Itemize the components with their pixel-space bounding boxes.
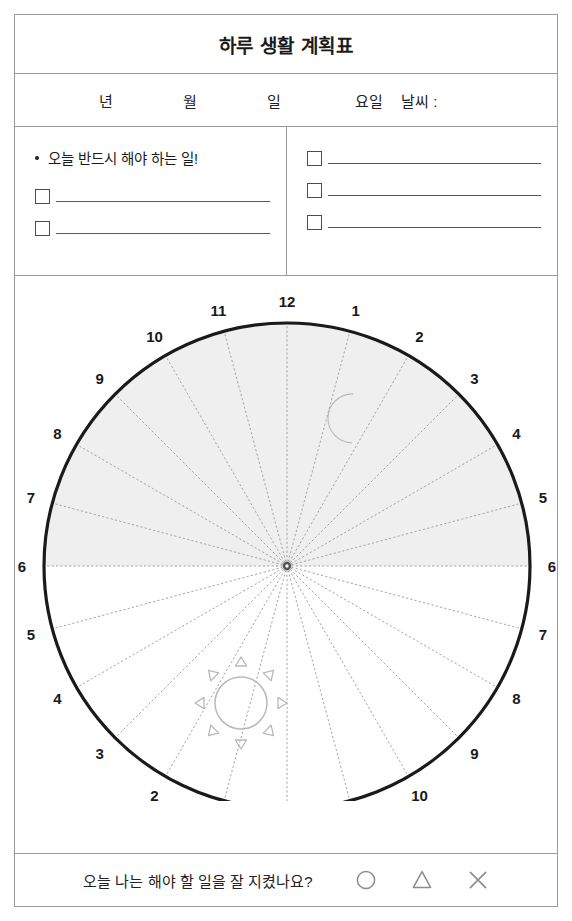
- todo-item-row[interactable]: [35, 221, 270, 236]
- hour-label: 1: [351, 302, 359, 319]
- hour-label: 4: [512, 425, 521, 442]
- hour-label: 7: [27, 489, 35, 506]
- year-label[interactable]: 년: [99, 90, 113, 111]
- todo-item-row[interactable]: [307, 215, 542, 230]
- write-in-line[interactable]: [328, 195, 542, 196]
- hour-spoke[interactable]: [287, 566, 522, 629]
- todo-column-right: [287, 127, 558, 275]
- hour-label: 3: [470, 370, 478, 387]
- hour-spoke[interactable]: [224, 566, 287, 801]
- hour-spoke[interactable]: [287, 566, 350, 801]
- hour-label: 4: [53, 690, 62, 707]
- checkbox-icon[interactable]: [307, 183, 322, 198]
- hour-label: 6: [548, 558, 556, 575]
- hour-label: 9: [470, 745, 478, 762]
- hour-label: 2: [415, 328, 423, 345]
- write-in-line[interactable]: [328, 227, 542, 228]
- month-label[interactable]: 월: [183, 90, 197, 111]
- hour-label: 5: [27, 626, 35, 643]
- write-in-line[interactable]: [56, 233, 270, 234]
- hour-spoke[interactable]: [287, 566, 409, 776]
- worksheet-sheet: 하루 생활 계획표 년 월 일 요일 날씨 : 오늘 반드시 해야 하는 일!: [14, 14, 558, 907]
- title-row: 하루 생활 계획표: [15, 15, 557, 74]
- write-in-line[interactable]: [328, 163, 542, 164]
- circle-mark-icon[interactable]: [355, 869, 377, 891]
- hour-spoke[interactable]: [115, 566, 287, 738]
- hour-label: 8: [53, 425, 61, 442]
- cross-mark-icon[interactable]: [467, 869, 489, 891]
- hour-label: 6: [18, 558, 26, 575]
- hour-label: 12: [279, 293, 296, 310]
- todo-item-row[interactable]: [307, 151, 542, 166]
- checkbox-icon[interactable]: [35, 189, 50, 204]
- write-in-line[interactable]: [56, 201, 270, 202]
- hour-label: 2: [150, 787, 158, 801]
- triangle-mark-icon[interactable]: [411, 869, 433, 891]
- reflection-question: 오늘 나는 해야 할 일을 잘 지켰나요?: [83, 870, 312, 891]
- checkbox-icon[interactable]: [307, 151, 322, 166]
- hour-spoke[interactable]: [52, 566, 287, 629]
- todo-heading: 오늘 반드시 해야 하는 일!: [35, 147, 270, 168]
- weather-label[interactable]: 날씨 :: [401, 90, 437, 111]
- hour-label: 7: [539, 626, 547, 643]
- clock-hub-center: [285, 564, 288, 567]
- hour-label: 5: [539, 489, 547, 506]
- daily-schedule-clock[interactable]: 121234567891011121234567891011: [15, 276, 557, 801]
- todo-row: 오늘 반드시 해야 하는 일!: [15, 127, 557, 276]
- hour-label: 10: [411, 787, 428, 801]
- checkbox-icon[interactable]: [307, 215, 322, 230]
- hour-spoke[interactable]: [287, 566, 459, 738]
- sun-icon: [195, 657, 287, 749]
- weekday-label[interactable]: 요일: [355, 90, 383, 111]
- hour-label: 3: [95, 745, 103, 762]
- todo-column-left: 오늘 반드시 해야 하는 일!: [15, 127, 287, 275]
- footer-row: 오늘 나는 해야 할 일을 잘 지켰나요?: [15, 854, 557, 906]
- todo-item-row[interactable]: [35, 189, 270, 204]
- checkbox-icon[interactable]: [35, 221, 50, 236]
- hour-label: 9: [95, 370, 103, 387]
- todo-item-row[interactable]: [307, 183, 542, 198]
- bullet-icon: [35, 156, 39, 160]
- rating-marks: [355, 869, 489, 891]
- todo-heading-text: 오늘 반드시 해야 하는 일!: [48, 147, 198, 168]
- date-row: 년 월 일 요일 날씨 :: [15, 74, 557, 127]
- page-title: 하루 생활 계획표: [219, 31, 353, 58]
- hour-label: 8: [512, 690, 520, 707]
- hour-label: 11: [210, 302, 226, 319]
- hour-spoke[interactable]: [287, 566, 497, 688]
- hour-label: 10: [146, 328, 163, 345]
- day-label[interactable]: 일: [267, 90, 281, 111]
- clock-area: 121234567891011121234567891011: [15, 276, 557, 854]
- hour-spoke[interactable]: [77, 566, 287, 688]
